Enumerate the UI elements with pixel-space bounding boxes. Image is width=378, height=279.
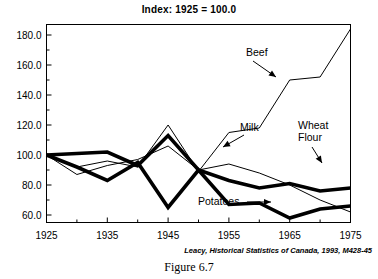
x-axis: 192519351945195519651975	[35, 218, 362, 241]
x-axis-tick-label: 1945	[157, 230, 180, 241]
figure-caption: Figure 6.7	[0, 260, 378, 274]
y-axis-tick-label: 60.0	[22, 210, 42, 221]
x-axis-tick-label: 1955	[218, 230, 241, 241]
series-label-text: Milk	[240, 121, 259, 133]
figure-container: Index: 1925 = 100.0 60.080.0100.0120.014…	[0, 0, 378, 279]
series-label-text: Potatoes	[198, 195, 239, 207]
annotation-arrowhead-icon	[268, 70, 276, 77]
x-axis-tick-label: 1935	[96, 230, 119, 241]
series-line-wheat-flour	[47, 136, 351, 192]
annotation-arrowhead-icon	[316, 155, 322, 163]
series-label-text: Flour	[298, 131, 322, 143]
y-axis-tick-label: 120.0	[16, 120, 41, 131]
x-axis-tick-label: 1925	[35, 230, 58, 241]
annotation-milk: Milk	[223, 121, 259, 147]
series-line-beef	[47, 29, 351, 172]
source-citation: Leacy, Historical Statistics of Canada, …	[0, 246, 372, 255]
annotation-beef: Beef	[246, 46, 276, 77]
annotation-arrowhead-icon	[223, 141, 231, 147]
x-axis-tick-label: 1965	[279, 230, 302, 241]
annotation-wheat-flour: WheatFlour	[298, 119, 328, 163]
line-chart-plot: 60.080.0100.0120.0140.0160.0180.0 192519…	[0, 0, 378, 250]
y-axis-tick-label: 140.0	[16, 90, 41, 101]
y-axis-tick-label: 160.0	[16, 60, 41, 71]
annotation-arrowhead-icon	[264, 199, 271, 205]
y-axis-tick-label: 80.0	[22, 180, 42, 191]
x-axis-tick-label: 1975	[339, 230, 362, 241]
series-annotations: BeefMilkWheatFlourPotatoes	[198, 46, 328, 207]
series-label-text: Wheat	[298, 119, 328, 131]
y-axis-tick-label: 180.0	[16, 30, 41, 41]
series-label-text: Beef	[246, 46, 268, 58]
y-axis-tick-label: 100.0	[16, 150, 41, 161]
